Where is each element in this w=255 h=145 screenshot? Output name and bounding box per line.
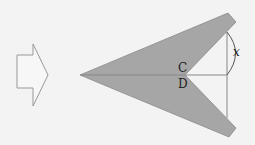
label-x: x (233, 45, 240, 59)
right-arrow-icon (17, 44, 48, 106)
diagram-svg: C D x (0, 0, 255, 145)
label-c: C (178, 61, 187, 75)
label-d: D (178, 77, 188, 91)
diagram-canvas: C D x (0, 0, 255, 145)
